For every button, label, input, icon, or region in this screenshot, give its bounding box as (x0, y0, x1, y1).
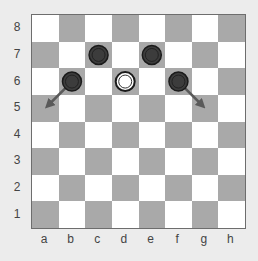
black-piece-c7 (89, 45, 108, 64)
black-piece-b6 (62, 72, 81, 91)
black-piece-f6 (169, 72, 188, 91)
black-piece-e7 (142, 45, 161, 64)
checkers-diagram: 87654321 abcdefgh (0, 0, 258, 261)
pieces-and-arrows (0, 0, 258, 261)
white-piece-d6 (116, 72, 135, 91)
